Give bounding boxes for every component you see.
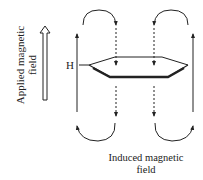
bottom-left-arc-arrow (77, 123, 115, 141)
bottom-right-arc-arrow (155, 123, 193, 141)
applied-field-label-line1: Applied magnetic (14, 26, 26, 105)
induced-field-label: Induced magnetic field (109, 152, 184, 175)
benzene-ring-current-diagram: Applied magnetic field H Induced magneti… (0, 0, 203, 180)
induced-field-label-line1: Induced magnetic (109, 152, 184, 163)
applied-field-arrow-icon (40, 26, 50, 100)
applied-field-label: Applied magnetic field (14, 26, 38, 105)
top-left-arc-arrow (83, 10, 116, 25)
top-right-arc-arrow (154, 10, 188, 25)
applied-field-label-line2: field (26, 54, 38, 75)
induced-field-label-line2: field (136, 164, 156, 175)
benzene-ring (79, 57, 188, 77)
hydrogen-atom-label: H (66, 59, 74, 71)
